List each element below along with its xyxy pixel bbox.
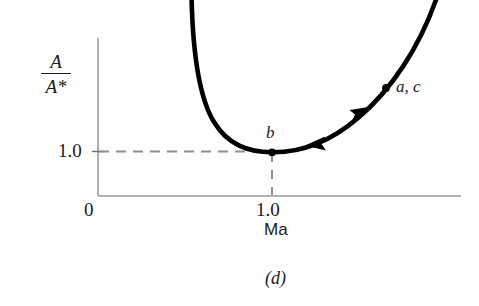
x-tick-label-1: 1.0 — [256, 200, 280, 219]
y-axis-label-denominator: A* — [34, 74, 78, 96]
figure-container: A A* 1.0 0 1.0 Ma b a, c (d) — [0, 0, 479, 306]
y-axis-label: A A* — [34, 52, 78, 96]
x-axis-title: Ma — [264, 221, 288, 238]
y-tick-label-1: 1.0 — [58, 141, 82, 160]
figure-caption: (d) — [265, 269, 286, 287]
annotation-label-b: b — [266, 124, 275, 141]
data-point-ac-marker — [382, 84, 390, 92]
annotation-label-a-c: a, c — [396, 78, 421, 95]
x-tick-label-0: 0 — [84, 200, 94, 219]
y-axis-label-numerator: A — [34, 52, 78, 73]
data-point-b-marker — [268, 148, 276, 156]
